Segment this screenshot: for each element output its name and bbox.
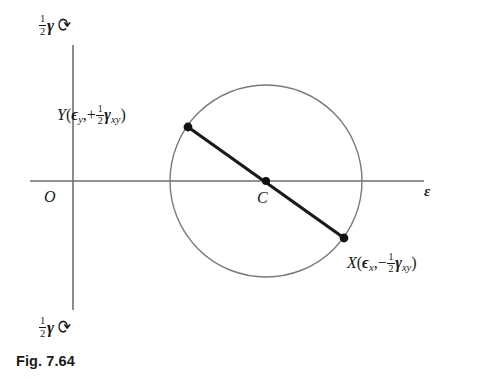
point-y-name: Y: [57, 106, 66, 123]
point-y-half-fraction: 12: [96, 104, 103, 126]
gamma-symbol-top: γ: [47, 16, 54, 35]
point-x-close-paren: ): [411, 254, 416, 271]
half-fraction-bottom: 1 2: [39, 316, 47, 340]
point-marker-y: [184, 123, 193, 132]
rotation-arc-icon-top: ⟳: [58, 15, 71, 35]
point-marker-c: [262, 177, 270, 185]
point-marker-x: [340, 234, 349, 243]
rotation-arc-icon-bottom: ⟳: [58, 317, 71, 337]
point-x-shear-subscript: xy: [402, 262, 411, 273]
point-y-shear-subscript: xy: [111, 114, 120, 125]
vertical-axis-label-top: 1 2 γ⟳: [38, 14, 73, 38]
gamma-symbol-bottom: γ: [47, 318, 54, 337]
point-x-name: X: [347, 254, 357, 271]
mohr-circle-figure: 1 2 γ⟳ 1 2 γ⟳ O C ε Y(ϵy,+12γxy) X(ϵx,−1…: [0, 0, 486, 379]
circle-center-label: C: [257, 190, 268, 206]
point-x-sign: −: [378, 254, 387, 271]
vertical-axis-label-bottom: 1 2 γ⟳: [38, 316, 73, 340]
point-x-half-fraction: 12: [387, 252, 394, 274]
point-y-sign: +: [87, 106, 96, 123]
figure-caption: Fig. 7.64: [16, 353, 75, 369]
half-fraction-top: 1 2: [39, 14, 47, 38]
point-x-strain-symbol: ϵ: [362, 254, 369, 271]
point-y-close-paren: ): [120, 106, 125, 123]
point-label-x: X(ϵx,−12γxy): [347, 252, 417, 274]
horizontal-axis-label: ε: [424, 184, 430, 199]
point-x-shear-symbol: γ: [395, 254, 402, 271]
point-label-y: Y(ϵy,+12γxy): [57, 104, 126, 126]
origin-label: O: [44, 189, 56, 205]
